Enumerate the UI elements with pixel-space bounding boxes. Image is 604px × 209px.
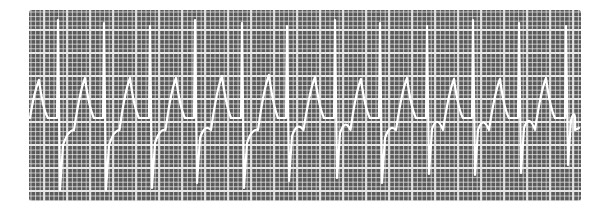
grid-paper: [29, 10, 581, 201]
ecg-strip: [0, 0, 604, 209]
